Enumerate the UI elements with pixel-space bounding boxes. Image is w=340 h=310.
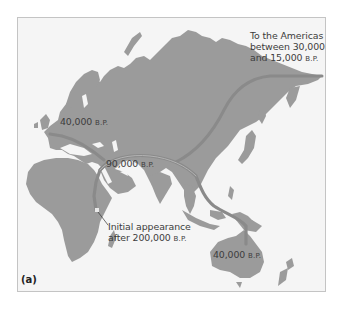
new-zealand-south-landmass (278, 268, 288, 286)
origin-marker (95, 208, 99, 212)
india-landmass (150, 172, 172, 204)
ireland-landmass (34, 122, 38, 128)
japan-landmass (238, 130, 256, 164)
tasmania-landmass (236, 282, 242, 288)
philippines-landmass (228, 186, 234, 200)
label-americas-line3: and 15,000 B.P. (250, 52, 325, 65)
panel-label: (a) (21, 274, 37, 285)
label-australia-40000: 40,000 B.P. (213, 249, 261, 262)
label-africa-line1: Initial appearance (108, 221, 191, 232)
novaya-zemlya-landmass (124, 32, 142, 56)
landmasses (26, 30, 322, 288)
label-europe-40000: 40,000 B.P. (60, 116, 108, 129)
new-zealand-north-landmass (286, 258, 294, 270)
label-americas-line2: between 30,000 (250, 41, 325, 52)
label-middle-east-90000: 90,000 B.P. (106, 158, 154, 171)
label-americas-line1: To the Americas (250, 30, 325, 41)
label-initial-appearance: Initial appearance after 200,000 B.P. (108, 221, 191, 245)
label-to-americas: To the Americas between 30,000 and 15,00… (250, 30, 325, 65)
label-africa-line2: after 200,000 B.P. (108, 232, 191, 245)
